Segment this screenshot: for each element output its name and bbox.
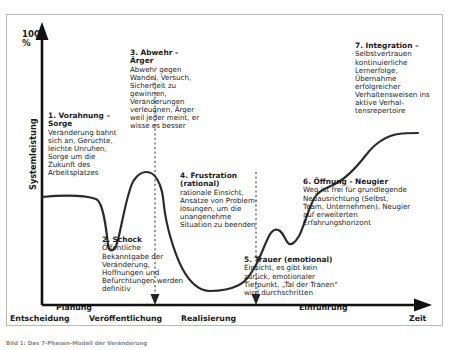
figure-caption: Bild 1: Das 7-Phasen-Modell der Veränder… xyxy=(6,340,306,349)
phase-label-realisierung: Realisierung xyxy=(181,314,236,323)
stage-label-7: 7. Integration – Selbstvertrauen kontinu… xyxy=(355,42,433,115)
stage-label-6: 6. Öffnung - Neugier Weg ist frei für gr… xyxy=(303,178,411,227)
phase-label-entscheidung: Entscheidung xyxy=(10,314,70,323)
stage-title-4: Frustration (rational) xyxy=(180,171,237,188)
stage-title-1: Vorahnung – Sorge xyxy=(48,111,110,128)
stage-label-3: 3. Abwehr – Ärger Abwehr gegen Wandel, V… xyxy=(130,49,202,131)
stage-label-2: 2. Schock Öffentliche Bekanntgabe der Ve… xyxy=(102,236,188,293)
y-axis-title: Systemleistung xyxy=(28,118,38,190)
phase-label-einfuehrung: Einführung xyxy=(299,303,348,312)
stage-body-4: rationale Einsicht, Ansätze von Problem­… xyxy=(180,189,260,229)
x-axis-arrowhead xyxy=(414,299,432,312)
stage-label-4: 4. Frustration (rational) rationale Eins… xyxy=(180,172,260,229)
y-axis-max-value: 100 % xyxy=(22,30,40,47)
stage-body-5: Einsicht, es gibt kein zurück, emotional… xyxy=(244,264,340,296)
stage-body-1: Veränderung bahnt sich an, Gerüchte, lei… xyxy=(48,129,120,177)
stage-label-5: 5. Trauer (emotional) Einsicht, es gibt … xyxy=(244,256,340,297)
stage-body-6: Weg ist frei für grundlegende Neuausrich… xyxy=(303,186,411,226)
stage-body-7: Selbstvertrauen kontinuierliche Lernerfo… xyxy=(355,50,433,115)
stage-body-3: Abwehr gegen Wandel, Versuch, Sicherheit… xyxy=(130,66,202,131)
phase-label-planung: Planung xyxy=(56,303,92,312)
phase-divider-arrow-veroeffentlichung xyxy=(151,294,160,305)
x-axis-title: Zeit xyxy=(409,314,426,323)
stage-title-3: Abwehr – Ärger xyxy=(130,48,179,65)
stage-body-2: Öffentliche Bekanntgabe der Veränderung,… xyxy=(102,244,188,292)
phase-label-veroeffentlichung: Veröffentlichung xyxy=(89,314,162,323)
stage-label-1: 1. Vorahnung – Sorge Veränderung bahnt s… xyxy=(48,112,120,177)
